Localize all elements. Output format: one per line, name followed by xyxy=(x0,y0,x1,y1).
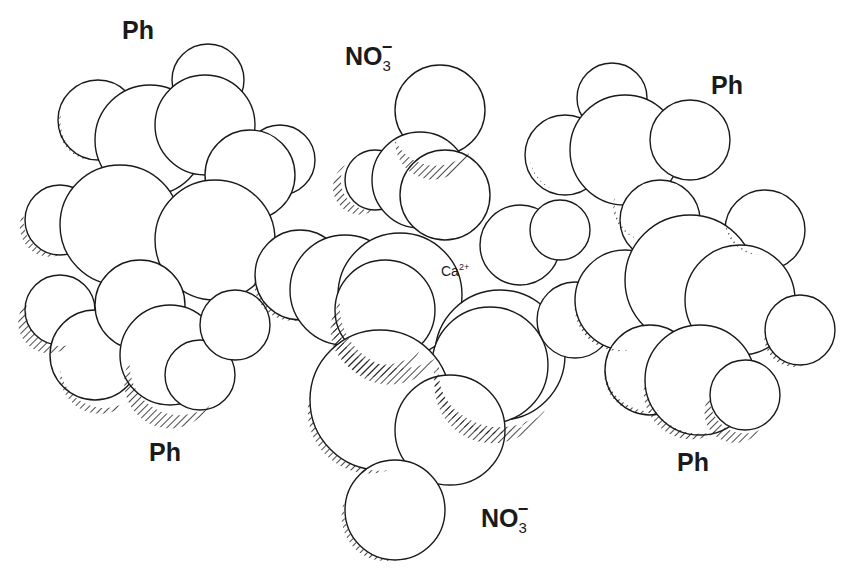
label-ph-bottom-left: Ph xyxy=(149,440,181,465)
label-calcium-ion: Ca2+ xyxy=(441,263,469,278)
molecular-model-figure: Ph NO3− Ph Ph NO3− Ph Ca2+ xyxy=(0,0,858,573)
label-nitrate-bottom: NO3− xyxy=(481,500,528,535)
label-nitrate-top: NO3− xyxy=(345,38,392,73)
label-ph-top-left: Ph xyxy=(122,18,154,43)
label-ph-bottom-right: Ph xyxy=(677,450,709,475)
label-ph-top-right: Ph xyxy=(711,73,743,98)
